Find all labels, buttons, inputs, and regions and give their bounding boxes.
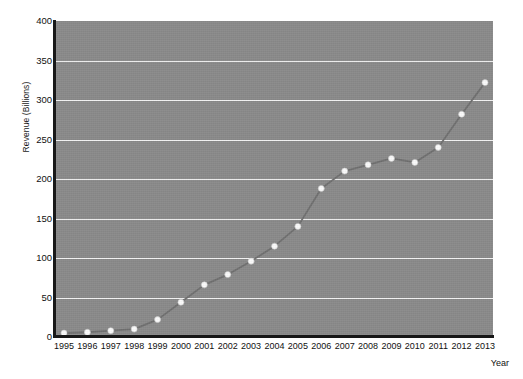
data-point-marker	[412, 159, 418, 165]
plot-area	[56, 21, 493, 337]
y-tick-label: 350	[26, 56, 52, 66]
y-tick-label: 50	[26, 293, 52, 303]
series-line	[64, 83, 485, 333]
x-tick-label: 2006	[311, 341, 331, 351]
data-point-marker	[155, 317, 161, 323]
x-tick-label: 2011	[429, 341, 448, 351]
y-tick-label: 200	[26, 174, 52, 184]
x-tick-label: 2007	[335, 341, 355, 351]
chart-figure: Revenue (Billions) 050100150200250300350…	[0, 0, 523, 379]
x-tick-label: 2008	[358, 341, 378, 351]
revenue-line-series	[56, 21, 493, 337]
y-tick-label: 250	[26, 135, 52, 145]
x-tick-label: 2012	[452, 341, 472, 351]
data-point-marker	[178, 299, 184, 305]
data-point-marker	[435, 144, 441, 150]
x-tick-label: 1996	[77, 341, 97, 351]
x-tick-label: 2003	[241, 341, 261, 351]
x-axis-tick-labels: 1995199619971998199920002001200220032004…	[56, 341, 493, 355]
y-tick-label: 150	[26, 214, 52, 224]
x-tick-label: 2002	[218, 341, 238, 351]
data-point-marker	[388, 155, 394, 161]
data-point-marker	[295, 223, 301, 229]
data-point-marker	[225, 272, 231, 278]
x-tick-label: 2009	[381, 341, 401, 351]
x-axis-title: Year	[491, 358, 509, 368]
x-axis-spine	[53, 335, 494, 338]
y-axis-tick-labels: 050100150200250300350400	[22, 0, 52, 379]
x-tick-label: 2010	[405, 341, 425, 351]
x-tick-label: 2004	[264, 341, 284, 351]
x-tick-label: 2001	[194, 341, 214, 351]
data-point-marker	[201, 282, 207, 288]
y-tick-label: 300	[26, 95, 52, 105]
data-point-marker	[272, 243, 278, 249]
x-tick-label: 1998	[124, 341, 144, 351]
series-markers	[61, 80, 488, 336]
data-point-marker	[459, 111, 465, 117]
y-tick-label: 100	[26, 253, 52, 263]
x-tick-label: 1995	[54, 341, 74, 351]
data-point-marker	[248, 258, 254, 264]
y-tick-label: 0	[26, 332, 52, 342]
data-point-marker	[318, 185, 324, 191]
x-tick-label: 1997	[101, 341, 121, 351]
data-point-marker	[482, 80, 488, 86]
x-tick-label: 2013	[475, 341, 495, 351]
x-tick-label: 1999	[148, 341, 168, 351]
data-point-marker	[108, 328, 114, 334]
data-point-marker	[365, 162, 371, 168]
x-tick-label: 2005	[288, 341, 308, 351]
data-point-marker	[131, 326, 137, 332]
y-tick-label: 400	[26, 16, 52, 26]
data-point-marker	[342, 168, 348, 174]
x-tick-label: 2000	[171, 341, 191, 351]
